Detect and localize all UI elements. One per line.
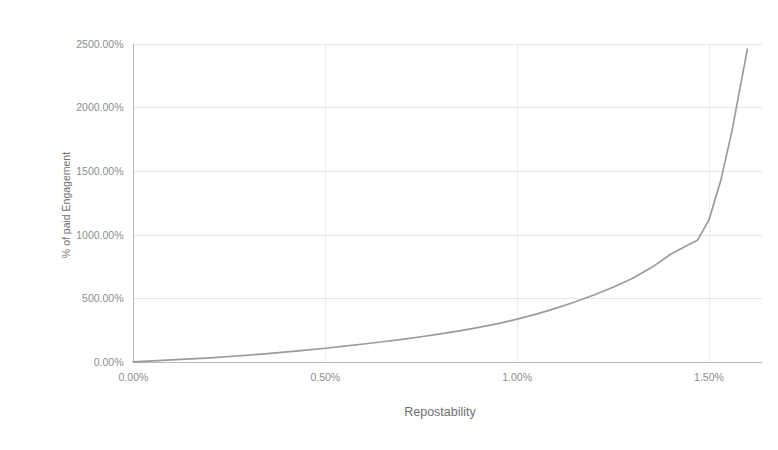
- x-axis-title: Repostability: [404, 405, 476, 419]
- vertical-gridlines: [325, 44, 709, 363]
- x-tick-label-3: 1.50%: [694, 371, 724, 383]
- x-axis-tick-labels: 0.00%0.50%1.00%1.50%: [119, 371, 724, 383]
- y-tick-label-5: 2500.00%: [76, 38, 123, 50]
- x-tick-label-0: 0.00%: [119, 371, 149, 383]
- x-tick-label-1: 0.50%: [310, 371, 340, 383]
- y-tick-label-0: 0.00%: [94, 356, 124, 368]
- data-series-group: [134, 49, 748, 362]
- y-tick-label-4: 2000.00%: [76, 101, 123, 113]
- horizontal-gridlines: [134, 44, 763, 299]
- y-tick-label-3: 1500.00%: [76, 165, 123, 177]
- y-axis-title: % of paid Engagement: [60, 152, 72, 258]
- chart-container: 0.00%500.00%1000.00%1500.00%2000.00%2500…: [0, 0, 778, 450]
- y-axis-tick-labels: 0.00%500.00%1000.00%1500.00%2000.00%2500…: [76, 38, 123, 369]
- y-tick-label-2: 1000.00%: [76, 229, 123, 241]
- y-tick-label-1: 500.00%: [82, 292, 123, 304]
- series-line-0: [134, 49, 748, 362]
- axis-lines: [133, 44, 762, 363]
- x-tick-label-2: 1.00%: [502, 371, 532, 383]
- line-chart: 0.00%500.00%1000.00%1500.00%2000.00%2500…: [0, 0, 778, 450]
